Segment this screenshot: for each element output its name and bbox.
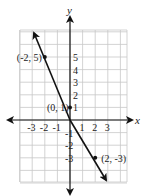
point-label: (-2, 5): [17, 52, 42, 64]
x-tick-label: 2: [92, 122, 97, 133]
point-label: (2, -3): [101, 153, 126, 165]
y-tick-label: -3: [65, 153, 73, 164]
x-tick-label: -1: [52, 122, 60, 133]
y-tick-label: -1: [65, 128, 73, 139]
y-tick-label: 2: [73, 90, 78, 101]
y-tick-label: -2: [65, 140, 73, 151]
x-tick-label: 1: [80, 122, 85, 133]
data-line: [70, 120, 106, 180]
y-tick-label: 5: [73, 52, 78, 63]
x-axis-label: x: [134, 114, 140, 126]
x-tick-label: -3: [27, 122, 35, 133]
y-axis-label: y: [66, 4, 72, 16]
coordinate-plane: x y -3-2-1123 54321-1-2-3 (-2, 5)(0, 1)(…: [0, 0, 149, 196]
data-point: [93, 156, 97, 160]
x-tick-label: -2: [40, 122, 48, 133]
y-tick-label: 1: [73, 102, 78, 113]
data-point: [43, 55, 47, 59]
x-tick-label: 3: [105, 122, 110, 133]
y-tick-label: 3: [73, 77, 78, 88]
y-tick-label: 4: [73, 65, 78, 76]
point-label: (0, 1): [47, 102, 69, 114]
